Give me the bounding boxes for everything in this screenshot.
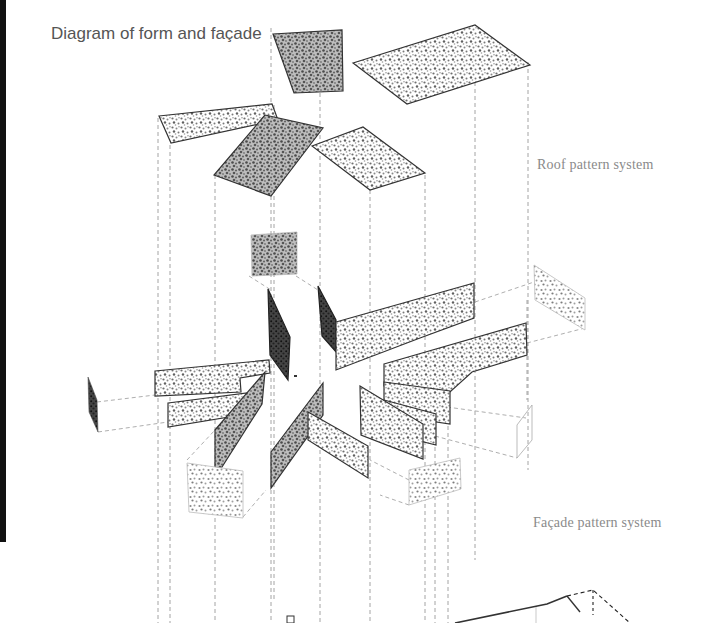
facade-panel <box>318 286 336 352</box>
facade-panel <box>251 232 297 276</box>
exploded-axonometric-diagram <box>0 0 704 623</box>
roof-panel <box>273 30 343 93</box>
center-marker <box>294 375 297 377</box>
facade-panel <box>187 463 243 518</box>
facade-panel <box>534 265 585 330</box>
facade-panel <box>88 377 98 432</box>
projection-lines-diagonal <box>97 276 585 517</box>
facade-panel-outline <box>517 405 532 458</box>
base-form-outline <box>287 590 630 623</box>
roof-pattern-panels <box>159 25 530 196</box>
facade-pattern-panels <box>88 232 585 518</box>
roof-panel <box>312 127 425 190</box>
facade-panel <box>308 412 368 478</box>
roof-panel <box>353 25 530 104</box>
